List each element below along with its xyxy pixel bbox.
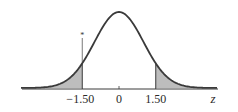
z-axis-label: z <box>209 91 215 106</box>
tick-label-0: 0 <box>116 92 122 106</box>
normal-curve <box>21 12 217 88</box>
tick-label-1-50: 1.50 <box>145 92 166 106</box>
tick-label-neg-1-50: −1.50 <box>66 92 94 106</box>
asterisk-marker: * <box>80 31 84 40</box>
normal-distribution-chart: * −1.50 0 1.50 z <box>0 0 238 112</box>
